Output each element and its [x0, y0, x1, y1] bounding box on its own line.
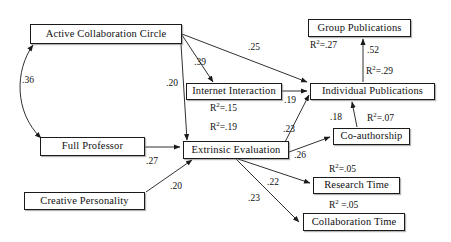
coefficient-value: .36 [22, 75, 34, 85]
r-value: =.05 [339, 200, 359, 210]
r-value: =.19 [220, 122, 237, 132]
path-coefficient-acc-extrinsic: .20 [166, 79, 178, 89]
r-value: =.07 [377, 113, 394, 123]
node-individual-publications[interactable]: Individual Publications [310, 83, 435, 100]
path-coefficient-acc-internet: .39 [194, 58, 206, 68]
edge-coauthorship-individual-publications [352, 102, 357, 127]
path-coefficient-acc-fullprofessor: .36 [22, 76, 34, 86]
node-label: Active Collaboration Circle [46, 29, 167, 40]
node-label: Full Professor [62, 141, 123, 152]
path-coefficient-creative-extrinsic: .20 [170, 182, 182, 192]
r-value: =.15 [220, 103, 237, 113]
path-coefficient-coauthorship-individual-publications: .18 [330, 113, 342, 123]
node-label: Creative Personality [40, 196, 128, 207]
coefficient-value: .25 [248, 42, 260, 52]
node-label: Collaboration Time [312, 217, 397, 228]
path-coefficient-extrinsic-research-time: .22 [267, 178, 279, 188]
r-squared-research-time: R2=.05 [329, 165, 356, 175]
r-squared-individual-publications: R2=.29 [366, 67, 393, 77]
node-co-authorship[interactable]: Co-authorship [333, 128, 410, 145]
node-creative-personality[interactable]: Creative Personality [24, 192, 145, 210]
coefficient-value: .22 [267, 177, 279, 187]
path-coefficient-extrinsic-collaboration-time: .23 [248, 194, 260, 204]
r-squared-internet-interaction: R2=.15 [210, 104, 237, 114]
path-coefficient-individual-publications-group-publications: .52 [367, 46, 379, 56]
coefficient-value: .39 [194, 57, 206, 67]
node-full-professor[interactable]: Full Professor [40, 137, 145, 156]
node-internet-interaction[interactable]: Internet Interaction [186, 83, 282, 100]
path-coefficient-fullprofessor-extrinsic: .27 [146, 157, 158, 167]
path-coefficient-internet-individual-publications: .19 [284, 96, 296, 106]
node-label: Individual Publications [322, 86, 423, 97]
coefficient-value: .19 [284, 95, 296, 105]
r-value: =.27 [320, 40, 337, 50]
node-collaboration-time[interactable]: Collaboration Time [303, 213, 405, 231]
edge-acc-fullprofessor [20, 45, 41, 138]
node-extrinsic-evaluation[interactable]: Extrinsic Evaluation [183, 141, 289, 159]
coefficient-value: .23 [248, 193, 260, 203]
path-coefficient-extrinsic-coauthorship: .26 [294, 151, 306, 161]
node-label: Group Publications [317, 23, 401, 34]
node-research-time[interactable]: Research Time [313, 177, 400, 194]
coefficient-value: .20 [170, 181, 182, 191]
node-group-publications[interactable]: Group Publications [308, 19, 411, 37]
r-squared-collaboration-time: R2 =.05 [329, 201, 358, 211]
node-label: Internet Interaction [192, 86, 276, 97]
path-coefficient-acc-individual-publications: .25 [248, 43, 260, 53]
r-squared-extrinsic-evaluation: R2=.19 [210, 123, 237, 133]
node-label: Co-authorship [340, 131, 402, 142]
r-squared-co-authorship: R2=.07 [367, 114, 394, 124]
node-label: Research Time [324, 180, 389, 191]
coefficient-value: .27 [146, 156, 158, 166]
coefficient-value: .26 [294, 150, 306, 160]
node-label: Extrinsic Evaluation [191, 145, 280, 156]
r-squared-group-publications: R2=.27 [310, 41, 337, 51]
coefficient-value: .20 [166, 78, 178, 88]
coefficient-value: .52 [367, 45, 379, 55]
coefficient-value: .18 [330, 112, 342, 122]
r-value: =.05 [339, 164, 356, 174]
r-value: =.29 [376, 66, 393, 76]
node-active-collaboration-circle[interactable]: Active Collaboration Circle [30, 24, 182, 44]
path-coefficient-extrinsic-individual-publications: .23 [283, 125, 295, 135]
coefficient-value: .23 [283, 124, 295, 134]
path-diagram: Active Collaboration Circle Full Profess… [0, 0, 451, 242]
